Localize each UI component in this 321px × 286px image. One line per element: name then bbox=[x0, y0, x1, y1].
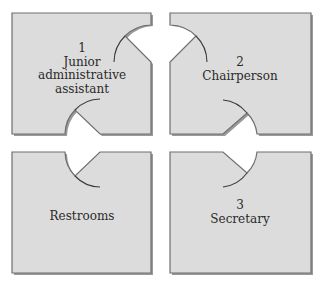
room-name-line: assistant bbox=[38, 83, 126, 97]
room-name-line: Chairperson bbox=[202, 70, 277, 84]
room-3-label: 3 Secretary bbox=[210, 199, 269, 226]
room-1-label: 1 Junior administrative assistant bbox=[38, 42, 126, 96]
room-name-line: Junior bbox=[38, 56, 126, 70]
room-name-line: Restrooms bbox=[50, 210, 115, 224]
room-number: 3 bbox=[210, 199, 269, 213]
room-name-line: administrative bbox=[38, 69, 126, 83]
room-name-line: Secretary bbox=[210, 213, 269, 227]
room-number: 2 bbox=[202, 56, 277, 70]
room-2-label: 2 Chairperson bbox=[202, 56, 277, 83]
restrooms-label: Restrooms bbox=[50, 210, 115, 224]
room-number: 1 bbox=[38, 42, 126, 56]
